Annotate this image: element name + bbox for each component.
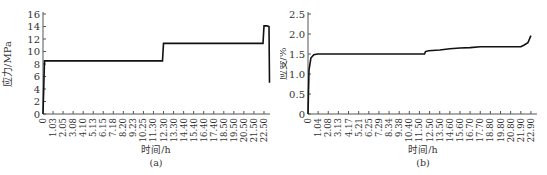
x-tick-label: 18.80 — [485, 118, 495, 142]
x-axis-ticks-b: 01.042.083.134.175.216.257.298.349.3810.… — [303, 111, 536, 142]
y-tick-label: 2 — [34, 96, 40, 107]
y-tick-label: 16 — [27, 9, 40, 20]
x-tick-label: 13.30 — [169, 118, 179, 142]
x-tick-label: 21.90 — [516, 118, 526, 142]
x-tick-label: 19.50 — [229, 118, 239, 142]
y-axis-label-a: 应力/MPa — [1, 41, 13, 87]
x-tick-label: 20.80 — [506, 118, 516, 142]
y-tick-label: 14 — [27, 21, 40, 32]
strain-line — [308, 36, 531, 114]
x-tick-label: 10.25 — [138, 118, 148, 142]
x-tick-label: 13.50 — [435, 118, 445, 142]
x-tick-label: 20.50 — [239, 118, 249, 142]
y-tick-label: 2.0 — [289, 29, 305, 40]
x-tick-label: 12.50 — [425, 118, 435, 142]
x-axis-label-b: 时间/h — [408, 144, 437, 155]
x-tick-label: 11.50 — [414, 118, 424, 142]
panel-caption-a: (a) — [149, 157, 162, 168]
stress-line — [43, 26, 270, 114]
y-tick-label: 6 — [34, 71, 40, 82]
y-tick-label: 1.0 — [289, 69, 305, 80]
x-tick-label: 11.30 — [148, 118, 158, 142]
x-axis-label-a: 时间/h — [141, 144, 170, 155]
x-tick-label: 9.23 — [128, 118, 138, 137]
x-tick-label: 22.50 — [259, 118, 269, 142]
x-tick-label: 15.40 — [189, 118, 199, 142]
x-tick-label: 4.17 — [344, 118, 354, 137]
x-tick-label: 16.70 — [465, 118, 475, 142]
x-tick-label: 14.60 — [445, 118, 455, 142]
y-tick-label: 0 — [34, 109, 40, 120]
x-tick-label: 15.60 — [455, 118, 465, 142]
panel-caption-b: (b) — [416, 157, 430, 168]
y-tick-label: 10 — [27, 46, 40, 57]
x-tick-label: 21.50 — [249, 118, 259, 142]
chart-b: 00.51.01.52.02.5 01.042.083.134.175.216.… — [280, 0, 547, 175]
x-tick-label: 18.50 — [219, 118, 229, 142]
x-tick-label: 0 — [38, 118, 48, 123]
x-tick-label: 5.21 — [354, 118, 364, 137]
x-tick-label: 17.40 — [209, 118, 219, 142]
x-tick-label: 10.40 — [404, 118, 414, 142]
x-tick-label: 2.08 — [323, 118, 333, 137]
x-tick-label: 0 — [303, 118, 313, 123]
x-tick-label: 6.15 — [98, 118, 108, 137]
x-tick-label: 14.40 — [179, 118, 189, 142]
y-tick-label: 0.5 — [289, 89, 305, 100]
y-tick-label: 12 — [27, 34, 40, 45]
x-tick-label: 6.25 — [364, 118, 374, 137]
x-tick-label: 8.34 — [384, 118, 394, 137]
x-axis-ticks-a: 01.032.053.084.105.136.157.188.209.2310.… — [38, 111, 269, 142]
y-tick-label: 1.5 — [289, 49, 305, 60]
chart-a: 0246810121416 01.032.053.084.105.136.157… — [0, 0, 280, 175]
x-tick-label: 7.29 — [374, 118, 384, 137]
x-tick-label: 5.13 — [88, 118, 98, 137]
x-tick-label: 7.18 — [108, 118, 118, 137]
x-tick-label: 19.80 — [496, 118, 506, 142]
y-axis-label-b: 应变/% — [280, 48, 288, 81]
x-tick-label: 1.03 — [48, 118, 58, 137]
x-tick-label: 16.40 — [199, 118, 209, 142]
y-tick-label: 2.5 — [289, 9, 305, 20]
x-tick-label: 3.08 — [68, 118, 78, 137]
x-tick-label: 1.04 — [313, 118, 323, 137]
y-tick-label: 8 — [34, 59, 40, 70]
x-tick-label: 2.05 — [58, 118, 68, 137]
x-tick-label: 9.38 — [394, 118, 404, 137]
x-tick-label: 8.20 — [118, 118, 128, 137]
x-tick-label: 4.10 — [78, 118, 88, 137]
x-tick-label: 3.13 — [333, 118, 343, 137]
x-tick-label: 12.30 — [159, 118, 169, 142]
x-tick-label: 17.70 — [475, 118, 485, 142]
y-tick-label: 4 — [34, 84, 40, 95]
y-tick-label: 0 — [299, 109, 305, 120]
x-tick-label: 22.90 — [526, 118, 536, 142]
